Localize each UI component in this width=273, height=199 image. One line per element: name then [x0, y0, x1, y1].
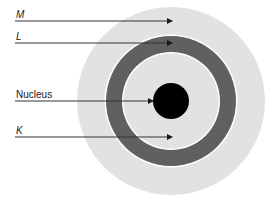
- nucleus: [153, 83, 189, 119]
- label-k: K: [16, 125, 24, 136]
- atom-shell-diagram: M L Nucleus K: [0, 0, 273, 199]
- label-m: M: [16, 9, 25, 20]
- label-nucleus: Nucleus: [16, 89, 52, 100]
- label-l: L: [16, 31, 22, 42]
